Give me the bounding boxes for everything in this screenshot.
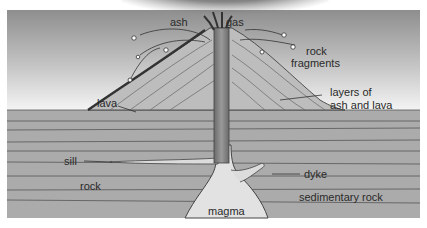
label-layers-line1: layers of bbox=[330, 86, 372, 98]
label-dyke: dyke bbox=[304, 168, 327, 180]
label-magma: magma bbox=[208, 205, 245, 217]
label-layers-line2: ash and lava bbox=[330, 99, 392, 111]
label-rock-fragments-line1: rock bbox=[306, 45, 327, 57]
label-sill: sill bbox=[64, 155, 77, 167]
vent bbox=[214, 28, 229, 163]
label-gas: gas bbox=[226, 16, 244, 28]
label-rock: rock bbox=[80, 180, 101, 192]
label-sedimentary-rock: sedimentary rock bbox=[299, 191, 383, 203]
label-lava: lava bbox=[97, 97, 117, 109]
label-rock-fragments-line2: fragments bbox=[291, 57, 340, 69]
label-ash: ash bbox=[170, 16, 188, 28]
